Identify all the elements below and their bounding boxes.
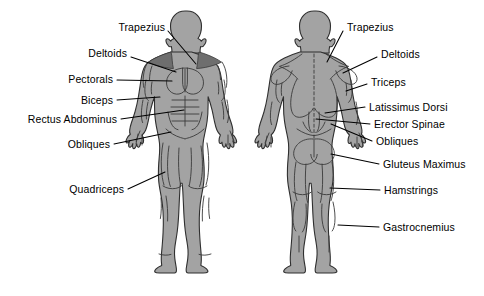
front-calf-right — [209, 198, 210, 219]
front-calf-left — [160, 198, 161, 219]
front-shin-right — [202, 196, 204, 221]
front-quad-right-outer — [206, 143, 209, 185]
muscle-groups-diagram: TrapeziusDeltoidsPectoralsBicepsRectus A… — [0, 0, 484, 296]
back-calf-right-outer — [332, 202, 335, 231]
label-gluteus-maximus-back: Gluteus Maximus — [383, 158, 466, 170]
label-deltoids-front: Deltoids — [88, 47, 127, 59]
label-biceps-front: Biceps — [81, 94, 113, 106]
label-latissimus-dorsi-back: Latissimus Dorsi — [369, 101, 448, 113]
leader-line-hamstrings-back — [330, 188, 380, 190]
label-quadriceps-front: Quadriceps — [69, 183, 124, 195]
leader-line-gluteus-maximus-back — [331, 154, 379, 164]
back-body — [255, 52, 366, 273]
label-pectorals-front: Pectorals — [68, 73, 113, 85]
label-deltoids-back: Deltoids — [381, 48, 420, 60]
leader-line-gastrocnemius-back — [338, 225, 379, 227]
label-trapezius-front: Trapezius — [118, 21, 165, 33]
front-view-figure — [126, 11, 237, 273]
leader-line-deltoids-back — [343, 57, 377, 73]
label-gastrocnemius-back: Gastrocnemius — [383, 221, 455, 233]
label-trapezius-back: Trapezius — [347, 21, 394, 33]
back-view-figure — [255, 11, 366, 273]
label-erector-spinae-back: Erector Spinae — [374, 118, 445, 130]
label-obliques-front: Obliques — [68, 138, 110, 150]
front-head — [166, 11, 206, 53]
label-triceps-back: Triceps — [371, 76, 406, 88]
front-body — [126, 52, 237, 273]
label-obliques-back: Obliques — [376, 135, 418, 147]
label-hamstrings-back: Hamstrings — [384, 184, 438, 196]
label-rectus-abdominus-front: Rectus Abdominus — [28, 113, 117, 125]
back-head — [295, 11, 335, 53]
